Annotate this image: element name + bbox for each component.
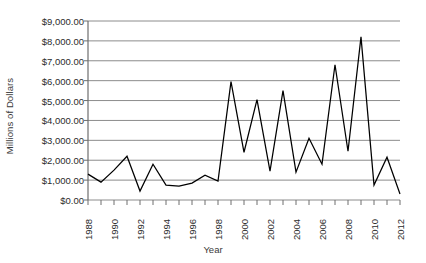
x-axis-tick-label: 2006 — [317, 213, 328, 247]
x-axis-tick-label: 1996 — [187, 213, 198, 247]
x-axis-tick-label: 2004 — [291, 213, 302, 247]
x-axis-tick-label: 1998 — [213, 213, 224, 247]
chart-container: Millions of Dollars $0.00$1,000.00$2,000… — [0, 0, 426, 263]
x-axis-tick-label: 1994 — [161, 213, 172, 247]
x-axis-tick-label: 2012 — [395, 213, 406, 247]
x-axis-title: Year — [0, 244, 426, 255]
x-axis-tick-label: 2002 — [265, 213, 276, 247]
x-axis-tick-label: 1990 — [109, 213, 120, 247]
x-axis-tick-label: 2010 — [369, 213, 380, 247]
x-axis-tick-label: 1992 — [135, 213, 146, 247]
x-axis-tick-label: 2000 — [239, 213, 250, 247]
x-axis-tick-label: 2008 — [343, 213, 354, 247]
x-axis-tick-label: 1988 — [83, 213, 94, 247]
